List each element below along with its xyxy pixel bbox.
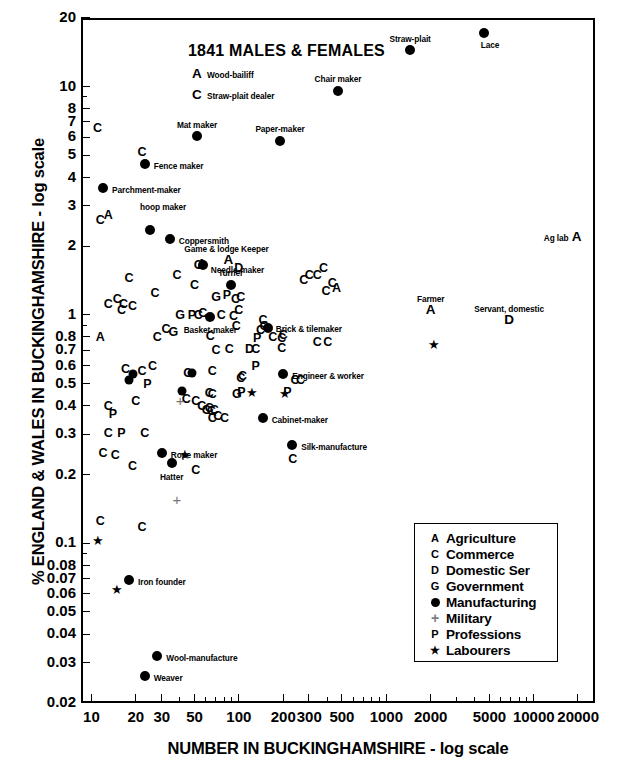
data-point-commerce: C — [140, 427, 149, 439]
legend-item-label: Labourers — [446, 643, 510, 658]
y-tick-label: 0.3 — [6, 428, 76, 438]
x-axis-title: NUMBER IN BUCKINGHAMSHIRE - log scale — [81, 739, 595, 763]
data-point-commerce: C — [137, 521, 146, 533]
x-tick-mark — [379, 697, 380, 703]
letter-c-icon: C — [424, 548, 446, 560]
x-tick-mark — [341, 694, 342, 703]
data-point-label: Weaver — [154, 673, 183, 683]
data-point-label: Rope maker — [171, 450, 218, 460]
data-point-label: Silk-manufacture — [301, 442, 367, 452]
y-tick-label: 0.6 — [6, 360, 76, 370]
top-caption — [95, 0, 525, 5]
y-tick-mark — [81, 365, 90, 366]
data-point-commerce: C — [288, 453, 297, 465]
data-point-label: Basket-maker — [120, 325, 300, 335]
letter-g-icon: G — [424, 580, 446, 592]
data-point-commerce: C — [137, 146, 146, 158]
data-point-commerce: C — [111, 449, 120, 461]
y-tick-mark — [81, 634, 90, 635]
data-point-commerce: C — [125, 272, 134, 284]
x-tick-mark — [456, 697, 457, 703]
y-tick-mark — [81, 121, 90, 122]
data-point-manufacturing — [287, 440, 297, 450]
data-point-label: Straw-plait dealer — [207, 91, 274, 101]
y-tick-label: 0.7 — [6, 344, 76, 354]
data-point-professions: P — [117, 427, 125, 439]
data-point-professions: P — [109, 408, 117, 420]
y-tick-label: 10 — [6, 81, 76, 91]
y-tick-mark — [81, 565, 90, 566]
data-point-label: Servant, domestic — [419, 304, 599, 314]
data-point-agriculture: A — [192, 68, 202, 80]
data-point-commerce: C — [208, 388, 217, 400]
data-point-label: Hatter — [82, 472, 262, 482]
data-point-manufacturing — [205, 312, 215, 322]
y-tick-mark — [81, 578, 90, 579]
y-tick-label: 0.02 — [6, 697, 76, 707]
data-point-commerce: C — [119, 298, 128, 310]
data-point-commerce: C — [128, 460, 137, 472]
x-tick-mark — [308, 694, 309, 703]
data-point-professions: P — [223, 289, 231, 301]
data-point-manufacturing — [263, 323, 273, 333]
data-point-agriculture: A — [224, 254, 234, 266]
data-point-commerce: C — [96, 515, 105, 527]
y-tick-mark — [81, 336, 90, 337]
data-point-manufacturing — [140, 671, 150, 681]
x-tick-label: 30 — [153, 708, 170, 725]
data-point-commerce: C — [323, 336, 332, 348]
y-tick-label: 0.03 — [6, 657, 76, 667]
x-tick-label: 1000 — [370, 708, 403, 725]
data-point-label: hoop maker — [140, 202, 186, 212]
y-tick-mark — [81, 350, 90, 351]
x-tick-mark — [519, 697, 520, 703]
x-tick-mark — [577, 694, 578, 703]
data-point-manufacturing — [98, 183, 108, 193]
data-point-agriculture: A — [332, 282, 341, 294]
data-point-professions: P — [252, 360, 260, 372]
x-tick-label: 20 — [127, 708, 144, 725]
x-tick-mark — [489, 694, 490, 703]
data-point-professions: P — [283, 386, 291, 398]
y-tick-label: 7 — [6, 116, 76, 126]
data-point-commerce: C — [192, 89, 202, 101]
legend-item-manufacturing: Manufacturing — [415, 594, 557, 610]
y-tick-label: 6 — [6, 131, 76, 141]
data-point-manufacturing — [405, 45, 415, 55]
data-point-label: Straw-plait — [320, 34, 500, 44]
y-tick-label: 0.8 — [6, 331, 76, 341]
filled-circle-icon — [424, 596, 446, 608]
y-tick-mark — [81, 108, 90, 109]
data-point-military: + — [173, 494, 182, 506]
letter-a-icon: A — [424, 532, 446, 544]
data-point-manufacturing — [140, 159, 150, 169]
x-tick-mark — [238, 694, 239, 703]
y-tick-mark — [81, 593, 90, 594]
x-tick-mark — [386, 694, 387, 703]
y-tick-mark — [81, 702, 90, 703]
scatter-chart-figure: 1841 MALES & FEMALES % ENGLAND & WALES I… — [0, 0, 621, 763]
data-point-manufacturing — [124, 575, 134, 585]
x-tick-label: 100 — [226, 708, 251, 725]
y-tick-label: 1 — [6, 309, 76, 319]
data-point-commerce: C — [238, 370, 247, 382]
data-point-label: Paper-maker — [190, 124, 370, 134]
data-point-label: Fence maker — [154, 161, 204, 171]
data-point-commerce: C — [104, 298, 113, 310]
y-tick-mark — [81, 205, 90, 206]
data-point-manufacturing — [167, 458, 177, 468]
legend-item-label: Commerce — [446, 547, 514, 562]
x-tick-label: 2000 — [414, 708, 447, 725]
data-point-label: Iron founder — [138, 577, 186, 587]
y-tick-mark — [81, 543, 90, 544]
data-point-commerce: C — [217, 309, 226, 321]
x-tick-mark — [371, 697, 372, 703]
data-point-commerce: C — [104, 427, 113, 439]
x-tick-label: 10 — [83, 708, 100, 725]
legend: AAgricultureCCommerceDDomestic SerGGover… — [414, 523, 558, 662]
y-tick-label: 0.1 — [6, 537, 76, 547]
data-point-manufacturing — [258, 413, 268, 423]
y-tick-mark — [81, 246, 90, 247]
x-tick-mark — [533, 694, 534, 703]
data-point-commerce: C — [208, 365, 217, 377]
